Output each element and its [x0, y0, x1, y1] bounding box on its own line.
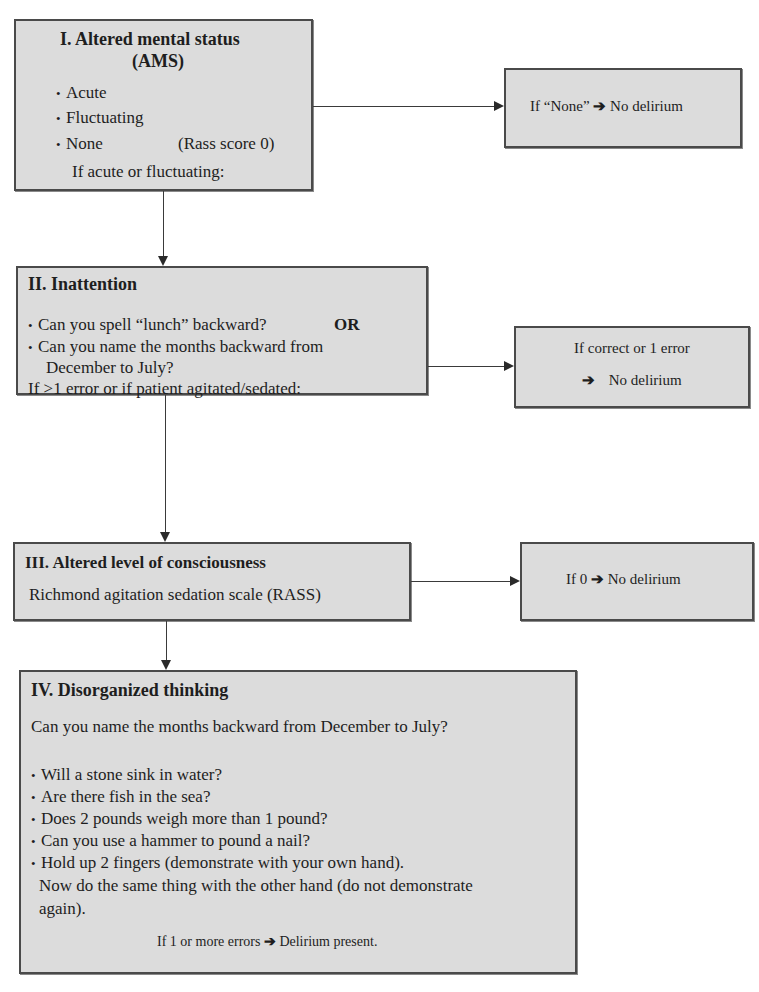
arrowhead-step2-outcome — [504, 361, 514, 371]
right-arrow-icon: ➔ — [264, 934, 276, 949]
step3-outcome-box: If 0 ➔ No delirium — [520, 542, 754, 621]
step1-option-acute: Acute — [56, 82, 107, 104]
connector-step2-to-step3 — [165, 395, 166, 532]
arrowhead-step3 — [160, 532, 170, 542]
step4-continuation-line1: Now do the same thing with the other han… — [39, 875, 473, 896]
step4-outcome-result: Delirium present. — [279, 934, 377, 949]
step3-outcome-result: No delirium — [608, 571, 681, 587]
step4-question-fish: Are there fish in the sea? — [31, 786, 210, 808]
connector-step1-to-outcome — [313, 106, 495, 107]
step1-outcome-text: If “None” ➔ No delirium — [530, 96, 683, 116]
step4-question-stone: Will a stone sink in water? — [31, 764, 222, 786]
step4-question-fingers: Hold up 2 fingers (demonstrate with your… — [31, 852, 404, 874]
step4-outcome-text: If 1 or more errors ➔ Delirium present. — [157, 932, 377, 952]
step3-consciousness-box: III. Altered level of consciousness Rich… — [13, 542, 411, 621]
step2-question-months-backward: Can you name the months backward from — [28, 336, 323, 358]
step1-option-fluctuating: Fluctuating — [56, 107, 143, 129]
step4-continuation-line2: again). — [39, 898, 86, 919]
step2-outcome-result: No delirium — [609, 372, 682, 388]
step4-question-hammer: Can you use a hammer to pound a nail? — [31, 830, 310, 852]
connector-step3-to-outcome — [411, 581, 511, 582]
step1-outcome-box: If “None” ➔ No delirium — [504, 68, 742, 148]
step1-option-none: None — [56, 133, 103, 155]
step2-question-months-backward-cont: December to July? — [46, 357, 173, 378]
arrowhead-step1-outcome — [494, 101, 504, 111]
step2-question-spell-lunch: Can you spell “lunch” backward? — [28, 314, 266, 336]
step2-or-label: OR — [334, 314, 360, 335]
step1-none-note: (Rass score 0) — [178, 133, 274, 154]
step4-question-pounds: Does 2 pounds weigh more than 1 pound? — [31, 808, 328, 830]
step4-outcome-prefix: If 1 or more errors — [157, 934, 260, 949]
step3-outcome-prefix: If 0 — [566, 571, 587, 587]
arrowhead-step4 — [161, 660, 171, 670]
step3-scale: Richmond agitation sedation scale (RASS) — [29, 584, 321, 605]
arrowhead-step2 — [158, 256, 168, 266]
step1-outcome-result: No delirium — [610, 98, 683, 114]
connector-step1-to-step2 — [163, 191, 164, 256]
step3-outcome-text: If 0 ➔ No delirium — [566, 569, 681, 589]
right-arrow-icon: ➔ — [591, 571, 604, 587]
connector-step3-to-step4 — [166, 621, 167, 660]
right-arrow-icon: ➔ — [582, 372, 595, 388]
step1-altered-mental-status-box: I. Altered mental status (AMS) Acute Flu… — [14, 19, 313, 191]
step3-title: III. Altered level of consciousness — [25, 552, 266, 573]
right-arrow-icon: ➔ — [593, 98, 606, 114]
step2-outcome-box: If correct or 1 error ➔ No delirium — [514, 326, 750, 408]
step4-intro-question: Can you name the months backward from De… — [31, 716, 448, 737]
step2-inattention-box: II. Inattention Can you spell “lunch” ba… — [16, 266, 428, 395]
step1-title-line1: I. Altered mental status — [60, 29, 240, 50]
step4-disorganized-thinking-box: IV. Disorganized thinking Can you name t… — [19, 670, 577, 974]
connector-step2-to-outcome — [428, 366, 505, 367]
step4-title: IV. Disorganized thinking — [31, 680, 228, 701]
arrowhead-step3-outcome — [510, 576, 520, 586]
step2-outcome-line2: ➔ No delirium — [582, 370, 682, 390]
step2-outcome-line1: If correct or 1 error — [516, 338, 748, 358]
step1-outcome-prefix: If “None” — [530, 98, 590, 114]
step2-title: II. Inattention — [28, 274, 137, 295]
step1-title-line2: (AMS) — [132, 51, 184, 72]
step1-condition: If acute or fluctuating: — [72, 161, 224, 182]
